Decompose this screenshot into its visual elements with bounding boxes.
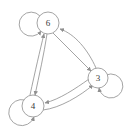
node-4[interactable]: 4 (22, 95, 44, 117)
edge-3-to-6[interactable] (60, 29, 96, 68)
node-3-circle[interactable] (88, 68, 108, 88)
node-4-circle[interactable] (22, 95, 44, 117)
edge-6-to-3[interactable] (53, 33, 91, 71)
edge-3-to-4[interactable] (45, 79, 89, 103)
edge-4-to-3[interactable] (43, 85, 93, 110)
node-3[interactable]: 3 (88, 68, 108, 88)
node-group: 6 3 4 (22, 12, 108, 117)
graph-canvas: 6 3 4 (0, 0, 126, 134)
node-6-circle[interactable] (37, 12, 59, 34)
graph-svg: 6 3 4 (0, 0, 126, 134)
node-6[interactable]: 6 (37, 12, 59, 34)
